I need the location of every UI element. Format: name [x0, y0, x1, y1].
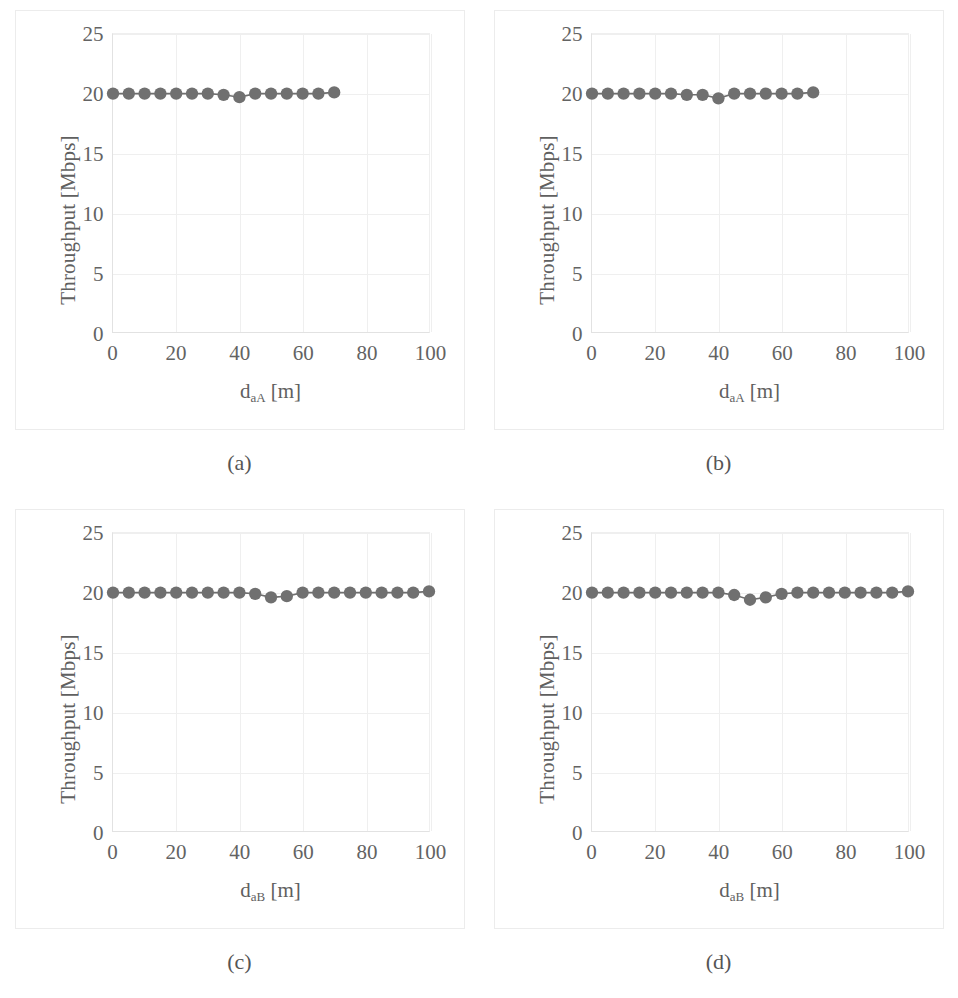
- data-point-marker: [280, 87, 292, 99]
- data-point-marker: [122, 586, 134, 598]
- x-tick-label: 60: [293, 341, 314, 366]
- x-axis-label-base: d: [240, 878, 251, 902]
- data-point-marker: [617, 87, 629, 99]
- x-axis-label-subscript: aA: [729, 390, 744, 405]
- y-tick-label: 5: [93, 761, 104, 786]
- data-point-marker: [649, 87, 661, 99]
- data-point-marker: [185, 586, 197, 598]
- panel-box: Throughput [Mbps]0510152025020406080100d…: [15, 509, 465, 929]
- data-point-marker: [170, 586, 182, 598]
- data-point-marker: [375, 586, 387, 598]
- data-point-marker: [759, 87, 771, 99]
- data-point-marker: [312, 586, 324, 598]
- x-tick-label: 80: [835, 341, 856, 366]
- data-point-marker: [106, 87, 118, 99]
- data-point-marker: [585, 586, 597, 598]
- x-tick-label: 0: [586, 341, 597, 366]
- y-tick-label: 10: [83, 701, 104, 726]
- data-point-marker: [201, 87, 213, 99]
- x-axis-label-unit: [m]: [745, 379, 781, 403]
- plot-area: 0510152025020406080100: [112, 33, 430, 333]
- y-tick-label: 20: [562, 82, 583, 107]
- y-tick-label: 0: [93, 821, 104, 846]
- x-tick-label: 100: [415, 341, 447, 366]
- subfigure-b: Throughput [Mbps]0510152025020406080100d…: [479, 0, 958, 499]
- data-point-marker: [154, 87, 166, 99]
- data-point-marker: [633, 586, 645, 598]
- gridline-vertical: [431, 34, 432, 332]
- data-point-marker: [838, 586, 850, 598]
- data-point-marker: [743, 87, 755, 99]
- x-tick-label: 60: [772, 840, 793, 865]
- data-point-marker: [822, 586, 834, 598]
- plot-area: 0510152025020406080100: [591, 33, 909, 333]
- data-point-marker: [759, 591, 771, 603]
- gridline-vertical: [431, 533, 432, 831]
- data-series: [592, 34, 908, 332]
- data-series: [592, 533, 908, 831]
- subfigure-caption: (c): [227, 949, 251, 975]
- x-tick-label: 100: [415, 840, 447, 865]
- y-tick-label: 15: [83, 142, 104, 167]
- x-axis-label-subscript: aB: [251, 889, 265, 904]
- data-point-marker: [712, 92, 724, 104]
- data-point-marker: [217, 586, 229, 598]
- y-tick-label: 0: [93, 322, 104, 347]
- data-point-marker: [901, 585, 913, 597]
- data-point-marker: [343, 586, 355, 598]
- data-point-marker: [870, 586, 882, 598]
- data-point-marker: [775, 588, 787, 600]
- data-point-marker: [791, 87, 803, 99]
- subfigure-grid: Throughput [Mbps]0510152025020406080100d…: [0, 0, 958, 998]
- x-tick-label: 60: [293, 840, 314, 865]
- x-tick-label: 100: [894, 341, 926, 366]
- x-axis-label: daB [m]: [591, 878, 909, 903]
- data-point-marker: [664, 87, 676, 99]
- y-tick-label: 15: [562, 142, 583, 167]
- x-tick-label: 100: [894, 840, 926, 865]
- data-point-marker: [649, 586, 661, 598]
- data-point-marker: [807, 86, 819, 98]
- data-point-marker: [249, 87, 261, 99]
- x-tick-label: 0: [107, 341, 118, 366]
- x-tick-label: 0: [586, 840, 597, 865]
- x-tick-label: 80: [356, 840, 377, 865]
- x-tick-label: 20: [166, 840, 187, 865]
- data-point-marker: [280, 590, 292, 602]
- data-series: [113, 533, 429, 831]
- x-tick-label: 20: [645, 840, 666, 865]
- y-tick-label: 10: [562, 202, 583, 227]
- data-point-marker: [585, 87, 597, 99]
- y-tick-label: 20: [562, 581, 583, 606]
- data-point-marker: [728, 87, 740, 99]
- data-point-marker: [249, 588, 261, 600]
- subfigure-caption: (a): [227, 450, 251, 476]
- data-point-marker: [680, 586, 692, 598]
- y-tick-label: 25: [83, 521, 104, 546]
- data-point-marker: [233, 586, 245, 598]
- data-point-marker: [328, 586, 340, 598]
- data-point-marker: [728, 589, 740, 601]
- x-axis-label: daA [m]: [591, 379, 909, 404]
- x-axis-label-base: d: [240, 379, 251, 403]
- data-point-marker: [854, 586, 866, 598]
- data-point-marker: [407, 586, 419, 598]
- data-point-marker: [138, 586, 150, 598]
- x-axis-label-subscript: aB: [730, 889, 744, 904]
- panel-box: Throughput [Mbps]0510152025020406080100d…: [15, 10, 465, 430]
- y-tick-label: 5: [572, 761, 583, 786]
- data-point-marker: [359, 586, 371, 598]
- data-point-marker: [106, 586, 118, 598]
- x-tick-label: 40: [229, 840, 250, 865]
- x-axis-label-unit: [m]: [744, 878, 780, 902]
- data-point-marker: [138, 87, 150, 99]
- x-tick-label: 40: [708, 341, 729, 366]
- x-tick-label: 40: [708, 840, 729, 865]
- data-point-marker: [154, 586, 166, 598]
- data-point-marker: [775, 87, 787, 99]
- data-point-marker: [233, 91, 245, 103]
- y-tick-label: 20: [83, 82, 104, 107]
- data-point-marker: [122, 87, 134, 99]
- gridline-vertical: [910, 533, 911, 831]
- x-tick-label: 20: [166, 341, 187, 366]
